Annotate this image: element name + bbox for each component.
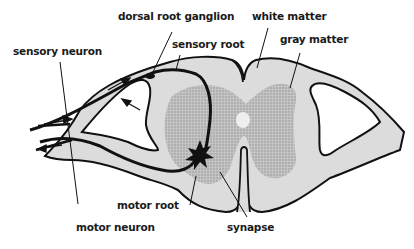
label-dorsal-root-ganglion: dorsal root ganglion [118, 10, 234, 22]
label-motor-neuron: motor neuron [76, 221, 155, 233]
dorsal-root-ganglion [145, 73, 155, 79]
label-motor-root: motor root [117, 199, 179, 211]
central-canal [236, 112, 250, 128]
spinal-cord-diagram: dorsal root ganglion white matter gray m… [0, 0, 414, 249]
label-white-matter: white matter [252, 10, 327, 22]
label-sensory-root: sensory root [172, 38, 244, 50]
label-gray-matter: gray matter [280, 33, 348, 45]
label-synapse: synapse [227, 221, 274, 233]
label-sensory-neuron: sensory neuron [13, 45, 102, 57]
